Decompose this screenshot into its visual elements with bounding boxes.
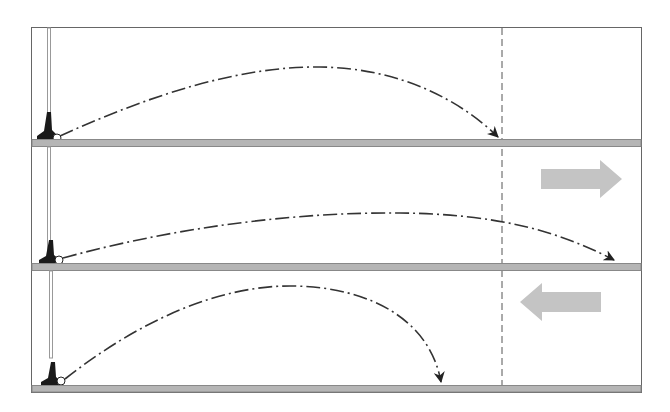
ground-bar	[32, 386, 641, 393]
outer-frame	[32, 28, 642, 393]
golf-ball	[55, 256, 63, 264]
golf-ball	[57, 377, 65, 385]
ground-bar	[32, 140, 641, 147]
ground-bar	[32, 264, 641, 271]
wind-trajectory-diagram	[0, 0, 670, 412]
club-shaft	[50, 271, 53, 358]
